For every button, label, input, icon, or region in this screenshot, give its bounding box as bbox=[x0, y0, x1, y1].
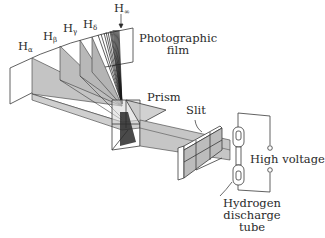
label-h-gamma: Hγ bbox=[63, 22, 77, 38]
label-h-delta: Hδ bbox=[83, 18, 97, 34]
label-h-infinity: H∞ bbox=[114, 2, 130, 18]
label-slit: Slit bbox=[186, 104, 206, 116]
label-high-voltage: High voltage bbox=[250, 153, 325, 165]
label-h-beta: Hβ bbox=[43, 30, 57, 46]
label-photographic-film: Photographic film bbox=[138, 32, 218, 56]
label-hydrogen-discharge-tube: Hydrogen discharge tube bbox=[222, 197, 282, 233]
hydrogen-discharge-tube bbox=[233, 127, 244, 185]
label-h-alpha: Hα bbox=[18, 40, 33, 56]
label-prism: Prism bbox=[147, 91, 181, 103]
